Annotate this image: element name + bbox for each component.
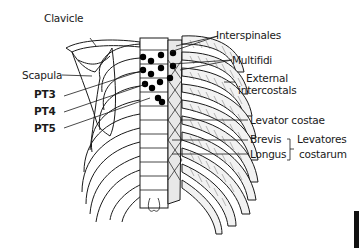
label-levatores-line2: costarum xyxy=(299,149,347,160)
label-external-intercostals-line2: intercostals xyxy=(238,85,296,96)
label-multifidi: Multifidi xyxy=(232,55,272,66)
clavicle-bone xyxy=(66,40,140,52)
label-pt5: PT5 xyxy=(34,123,56,134)
label-pt3: PT3 xyxy=(34,89,56,100)
label-longus: Longus xyxy=(250,149,286,160)
label-interspinales: Interspinales xyxy=(216,30,281,41)
label-scapula: Scapula xyxy=(22,70,62,81)
label-brevis: Brevis xyxy=(250,134,281,145)
label-levatores-line1: Levatores xyxy=(297,134,347,145)
levatores-bracket xyxy=(287,139,294,160)
label-clavicle: Clavicle xyxy=(44,13,83,24)
corner-dark-block xyxy=(354,211,359,248)
label-pt4: PT4 xyxy=(34,106,56,117)
anatomy-diagram: Clavicle Scapula PT3 PT4 PT5 Interspinal… xyxy=(0,0,359,248)
label-levator-costae: Levator costae xyxy=(250,115,325,126)
label-external-intercostals-line1: External xyxy=(246,73,288,84)
